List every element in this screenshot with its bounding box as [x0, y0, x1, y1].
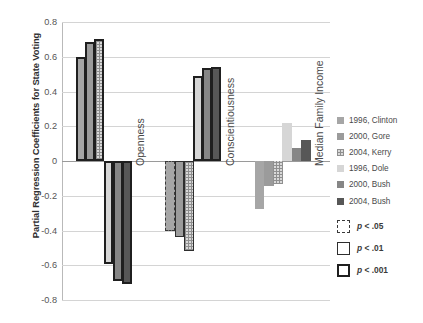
- gridline: [62, 22, 330, 23]
- y-tick-label: 0.2: [44, 121, 57, 131]
- series-legend: 1996, Clinton2000, Gore2004, Kerry1996, …: [337, 112, 423, 209]
- significance-legend-label: p < .05: [357, 221, 383, 231]
- bar: [94, 39, 104, 161]
- plot-area: 0.80.60.40.20-0.2-0.4-0.6-0.8OpennessCon…: [62, 22, 330, 300]
- bar: [301, 140, 311, 161]
- bar: [122, 161, 132, 284]
- y-tick-label: -0.2: [41, 191, 57, 201]
- significance-legend-label: p < .01: [357, 243, 383, 253]
- legend-swatch-icon: [337, 165, 344, 172]
- y-tick-label: 0.8: [44, 17, 57, 27]
- legend-item: 2004, Bush: [337, 193, 423, 209]
- gridline: [62, 300, 330, 301]
- y-axis-title: Partial Regression Coefficients for Stat…: [30, 6, 41, 266]
- y-tick-label: -0.8: [41, 295, 57, 305]
- y-tick-label: 0: [52, 156, 57, 166]
- legend-item: 2000, Bush: [337, 177, 423, 193]
- category-label: Openness: [134, 118, 146, 166]
- significance-legend-item: p < .001: [337, 259, 423, 281]
- legend-item: 2000, Gore: [337, 128, 423, 144]
- legend-swatch-icon: [337, 133, 344, 140]
- y-tick-label: 0.4: [44, 87, 57, 97]
- legend-swatch-icon: [337, 117, 344, 124]
- category-label: Median Family Income: [313, 60, 325, 166]
- significance-swatch-icon: [337, 264, 350, 277]
- y-tick-label: -0.6: [41, 260, 57, 270]
- legend-swatch-icon: [337, 149, 344, 156]
- bar: [211, 67, 221, 161]
- significance-legend-item: p < .05: [337, 215, 423, 237]
- legend-label: 2000, Gore: [349, 132, 390, 141]
- zero-axis-line: [62, 161, 330, 162]
- legend-label: 2000, Bush: [349, 180, 390, 189]
- legend-label: 1996, Dole: [349, 164, 389, 173]
- legend-item: 1996, Clinton: [337, 112, 423, 128]
- y-tick-label: -0.4: [41, 226, 57, 236]
- legend-label: 2004, Bush: [349, 197, 390, 206]
- bar: [184, 161, 194, 251]
- significance-legend: p < .05p < .01p < .001: [337, 215, 423, 281]
- y-tick-label: 0.6: [44, 52, 57, 62]
- significance-legend-item: p < .01: [337, 237, 423, 259]
- gridline: [62, 196, 330, 197]
- legend-swatch-icon: [337, 181, 344, 188]
- gridline: [62, 265, 330, 266]
- legend-item: 2004, Kerry: [337, 144, 423, 160]
- legend-swatch-icon: [337, 198, 344, 205]
- legend-item: 1996, Dole: [337, 161, 423, 177]
- gridline: [62, 231, 330, 232]
- chart-figure: Partial Regression Coefficients for Stat…: [0, 0, 423, 323]
- significance-swatch-icon: [337, 220, 350, 233]
- bar: [273, 161, 283, 184]
- significance-swatch-icon: [337, 242, 350, 255]
- category-label: Conscientiousness: [224, 78, 236, 166]
- legend-label: 1996, Clinton: [349, 116, 397, 125]
- legend-label: 2004, Kerry: [349, 148, 391, 157]
- significance-legend-label: p < .001: [357, 265, 388, 275]
